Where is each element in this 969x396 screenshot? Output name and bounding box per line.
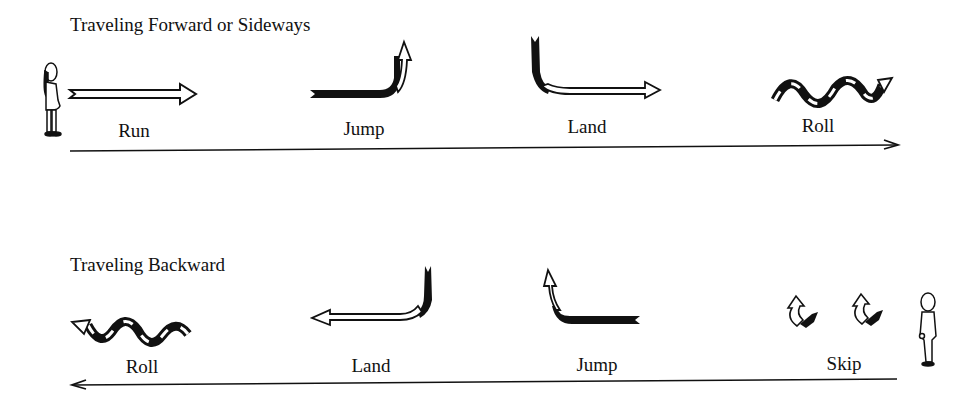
backward-direction-arrow-icon — [0, 0, 969, 396]
